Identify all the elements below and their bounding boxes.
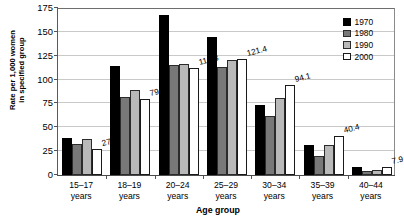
bar-1980[interactable] [265, 116, 275, 175]
x-axis-line [57, 175, 395, 176]
y-axis-tick-label: 125 [23, 51, 53, 60]
legend: 1970198019902000 [343, 16, 395, 62]
bar-group: 94.1 [251, 8, 299, 175]
legend-item-1980[interactable]: 1980 [343, 28, 395, 40]
bar-1970[interactable] [110, 66, 120, 175]
bar-1970[interactable] [159, 15, 169, 175]
bar-2000[interactable] [285, 85, 295, 175]
data-label: 7.9 [391, 155, 404, 166]
bar-group-bars [155, 8, 203, 175]
bar-2000[interactable] [189, 68, 199, 175]
bar-1970[interactable] [255, 105, 265, 175]
bar-1980[interactable] [217, 67, 227, 175]
bar-group: 40.4 [299, 8, 347, 175]
legend-item-2000[interactable]: 2000 [343, 51, 395, 63]
legend-label: 1970 [355, 17, 374, 27]
y-axis-title: Rate per 1,000 women in specified group [8, 10, 24, 130]
bar-1990[interactable] [275, 98, 285, 175]
bar-group: 112.3 [155, 8, 203, 175]
legend-swatch-icon [343, 41, 351, 49]
bar-group-bars [58, 8, 106, 175]
y-axis-tick-label: 175 [23, 3, 53, 12]
bar-1970[interactable] [304, 145, 314, 175]
legend-swatch-icon [343, 53, 351, 61]
legend-label: 1980 [355, 28, 374, 38]
bar-2000[interactable] [237, 59, 247, 175]
bar-1990[interactable] [82, 139, 92, 175]
x-axis-label: 40–44 years [342, 180, 400, 201]
bar-group-bars [106, 8, 154, 175]
bar-1980[interactable] [169, 65, 179, 175]
bar-group: 121.4 [203, 8, 251, 175]
y-axis-tick-label: 25 [23, 146, 53, 155]
bar-1990[interactable] [179, 64, 189, 175]
y-axis-tick-label: 0 [23, 170, 53, 179]
bar-2000[interactable] [92, 149, 102, 175]
legend-label: 2000 [355, 52, 374, 62]
bar-group-bars [251, 8, 299, 175]
legend-item-1990[interactable]: 1990 [343, 39, 395, 51]
bar-group: 79.2 [106, 8, 154, 175]
legend-item-1970[interactable]: 1970 [343, 16, 395, 28]
bar-1980[interactable] [314, 156, 324, 175]
bar-1990[interactable] [130, 90, 140, 175]
bar-1970[interactable] [62, 138, 72, 175]
x-axis-title: Age group [0, 205, 402, 215]
bar-2000[interactable] [140, 99, 150, 175]
bar-1990[interactable] [324, 145, 334, 175]
bar-2000[interactable] [334, 136, 344, 175]
legend-swatch-icon [343, 18, 351, 26]
bar-1980[interactable] [72, 144, 82, 175]
y-axis-tick-label: 75 [23, 98, 53, 107]
y-axis-tick-label: 100 [23, 75, 53, 84]
bar-group: 27.4 [58, 8, 106, 175]
bar-1980[interactable] [120, 97, 130, 175]
bar-group-bars [203, 8, 251, 175]
legend-label: 1990 [355, 40, 374, 50]
y-axis-tick-label: 150 [23, 27, 53, 36]
bar-1990[interactable] [227, 60, 237, 175]
legend-swatch-icon [343, 30, 351, 38]
bar-1970[interactable] [207, 37, 217, 175]
y-axis-tick-label: 50 [23, 122, 53, 131]
bar-group-bars [299, 8, 347, 175]
